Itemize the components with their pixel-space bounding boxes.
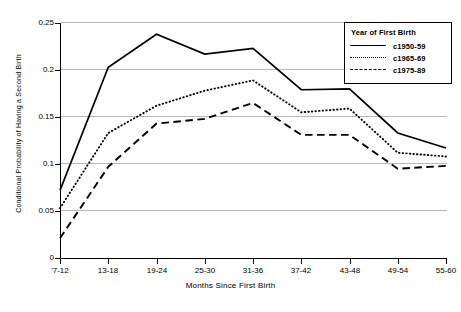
legend-swatch-dotted-icon bbox=[350, 54, 386, 62]
series-line-c1965-69 bbox=[60, 80, 446, 208]
legend-swatch-dashed-icon bbox=[350, 66, 386, 74]
legend-entry-c1975-89: c1975-89 bbox=[350, 66, 447, 74]
chart-figure: 0.25 0.2 0.15 0.1 0.05 0 Conditional Pro… bbox=[0, 0, 461, 312]
legend-title: Year of First Birth bbox=[351, 28, 447, 37]
legend-swatch-solid-icon bbox=[350, 42, 386, 50]
legend-label-c1965-69: c1965-69 bbox=[393, 54, 426, 63]
legend-label-c1975-89: c1975-89 bbox=[393, 66, 426, 75]
legend-label-c1950-59: c1950-59 bbox=[393, 42, 426, 51]
legend-entry-c1965-69: c1965-69 bbox=[350, 54, 447, 62]
legend-entry-c1950-59: c1950-59 bbox=[350, 42, 447, 50]
legend: Year of First Birth c1950-59 c1965-69 c1… bbox=[344, 22, 452, 84]
